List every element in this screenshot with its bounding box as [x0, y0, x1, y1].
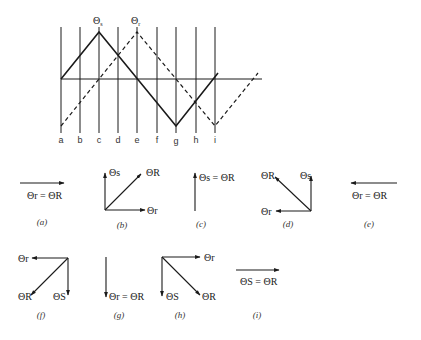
phasor-i-label: ΘS = ΘR: [240, 276, 278, 287]
phasor-c: Θs = ΘR (c): [195, 172, 235, 229]
phasor-d-label-s: Θs: [300, 170, 311, 181]
phasor-f-label-R: ΘR: [18, 291, 32, 302]
position-d: d: [115, 135, 120, 145]
arrow-diagonal-icon: [31, 258, 68, 295]
position-a: a: [58, 135, 63, 145]
phasor-h: Θr ΘS ΘR (h): [162, 252, 216, 320]
arrow-diagonal-icon: [275, 177, 311, 211]
stator-peak-label: Θs: [93, 15, 103, 27]
phasor-b-label-s: Θs: [109, 167, 120, 178]
phasor-f: Θr ΘR ΘS (f): [18, 253, 68, 320]
phasor-e: Θr = ΘR (e): [351, 183, 397, 229]
phasor-f-label-S: ΘS: [53, 291, 66, 302]
phasor-d: ΘR Θs Θr (d): [261, 170, 311, 229]
phasor-b-label-R: ΘR: [146, 167, 160, 178]
rotor-peak-label: Θr: [131, 15, 140, 27]
phasor-h-caption: (h): [175, 310, 186, 320]
position-i: i: [214, 135, 216, 145]
phasor-c-caption: (c): [196, 219, 206, 229]
phasor-a-label: Θr = ΘR: [27, 190, 62, 201]
phasor-g-label: Θr = ΘR: [109, 291, 144, 302]
phasor-f-caption: (f): [37, 310, 46, 320]
phasor-h-label-r: Θr: [204, 252, 215, 263]
phasor-e-label: Θr = ΘR: [352, 190, 387, 201]
phasor-b-label-r: Θr: [147, 205, 158, 216]
position-f: f: [156, 135, 159, 145]
phasor-d-label-R: ΘR: [261, 170, 275, 181]
mmf-phasor-diagram: Θs Θr a b c d e f g h i Θr = ΘR (a) Θs Θ…: [0, 0, 421, 340]
phasor-d-label-r: Θr: [261, 206, 272, 217]
position-c: c: [97, 135, 102, 145]
phasor-a-caption: (a): [37, 217, 48, 227]
position-e: e: [134, 135, 139, 145]
arrow-diagonal-icon: [105, 174, 141, 210]
phasor-b: Θs ΘR Θr (b): [105, 167, 160, 230]
phasor-i: ΘS = ΘR (i): [236, 270, 279, 320]
phasor-g-caption: (g): [114, 310, 125, 320]
position-b: b: [77, 135, 82, 145]
phasor-g: Θr = ΘR (g): [106, 257, 144, 320]
phasor-e-caption: (e): [364, 219, 374, 229]
position-h: h: [193, 135, 198, 145]
phasor-b-caption: (b): [117, 220, 128, 230]
phasor-c-label: Θs = ΘR: [199, 172, 235, 183]
phasor-h-label-R: ΘR: [202, 291, 216, 302]
phasor-i-caption: (i): [253, 310, 262, 320]
phasor-d-caption: (d): [283, 219, 294, 229]
phasor-a: Θr = ΘR (a): [20, 183, 64, 227]
position-g: g: [173, 136, 178, 146]
waveform-plot: [61, 27, 262, 133]
phasor-h-label-S: ΘS: [166, 291, 179, 302]
arrow-diagonal-icon: [162, 257, 200, 295]
position-labels: a b c d e f g h i: [58, 135, 216, 146]
phasor-f-label-r: Θr: [18, 253, 29, 264]
